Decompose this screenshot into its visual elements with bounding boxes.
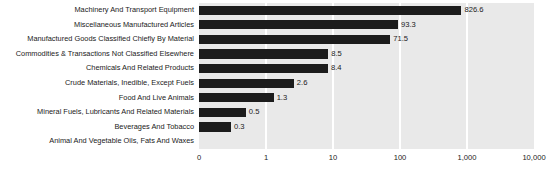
bar[interactable] bbox=[199, 64, 328, 73]
bar-value-label: 826.6 bbox=[464, 5, 483, 15]
bar-row: 0.3 bbox=[199, 120, 534, 135]
bar-value-label: 71.5 bbox=[393, 34, 408, 44]
x-tick-label: 10 bbox=[329, 152, 337, 164]
bar[interactable] bbox=[199, 20, 398, 29]
category-label: Mineral Fuels, Lubricants And Related Ma… bbox=[37, 105, 194, 120]
x-tick-label: 1,000 bbox=[457, 152, 476, 164]
bar[interactable] bbox=[199, 108, 246, 117]
x-tick-label: 10,000 bbox=[522, 152, 545, 164]
bar[interactable] bbox=[199, 49, 328, 58]
x-tick-label: 0 bbox=[197, 152, 201, 164]
category-label: Commodities & Transactions Not Classifie… bbox=[16, 47, 194, 62]
bar-value-label: 1.3 bbox=[277, 93, 288, 103]
bar-value-label: 0.3 bbox=[234, 122, 245, 132]
category-label: Chemicals And Related Products bbox=[86, 61, 194, 76]
category-label: Manufactured Goods Classified Chiefly By… bbox=[27, 32, 194, 47]
bar-value-label: 93.3 bbox=[401, 20, 416, 30]
x-axis-tick-labels: 01101001,00010,000 bbox=[199, 152, 534, 166]
category-label: Food And Live Animals bbox=[119, 91, 194, 106]
x-tick-label: 100 bbox=[394, 152, 407, 164]
bar[interactable] bbox=[199, 79, 294, 88]
bar-row: 8.5 bbox=[199, 47, 534, 62]
category-label: Animal And Vegetable Oils, Fats And Waxe… bbox=[49, 134, 194, 149]
bar[interactable] bbox=[199, 93, 274, 102]
bar[interactable] bbox=[199, 122, 231, 131]
category-label: Miscellaneous Manufactured Articles bbox=[74, 18, 194, 33]
bar-row bbox=[199, 134, 534, 149]
bar-value-label: 0.5 bbox=[249, 107, 260, 117]
bar-row: 93.3 bbox=[199, 18, 534, 33]
bar-value-label: 8.5 bbox=[331, 49, 342, 59]
category-axis-labels: Machinery And Transport EquipmentMiscell… bbox=[0, 3, 197, 149]
bar-value-label: 8.4 bbox=[331, 63, 342, 73]
bar-value-label: 2.6 bbox=[297, 78, 308, 88]
plot-area: 826.693.371.58.58.42.61.30.50.3 bbox=[199, 3, 534, 149]
bar[interactable] bbox=[199, 35, 390, 44]
bar-row: 0.5 bbox=[199, 105, 534, 120]
bar-row: 1.3 bbox=[199, 91, 534, 106]
horizontal-bar-chart: Machinery And Transport EquipmentMiscell… bbox=[0, 0, 554, 180]
bar-row: 2.6 bbox=[199, 76, 534, 91]
bar-row: 71.5 bbox=[199, 32, 534, 47]
category-label: Crude Materials, Inedible, Except Fuels bbox=[65, 76, 194, 91]
bar-row: 826.6 bbox=[199, 3, 534, 18]
x-tick-label: 1 bbox=[264, 152, 268, 164]
bar-row: 8.4 bbox=[199, 61, 534, 76]
bar[interactable] bbox=[199, 6, 461, 15]
category-label: Machinery And Transport Equipment bbox=[74, 3, 194, 18]
category-label: Beverages And Tobacco bbox=[114, 120, 194, 135]
